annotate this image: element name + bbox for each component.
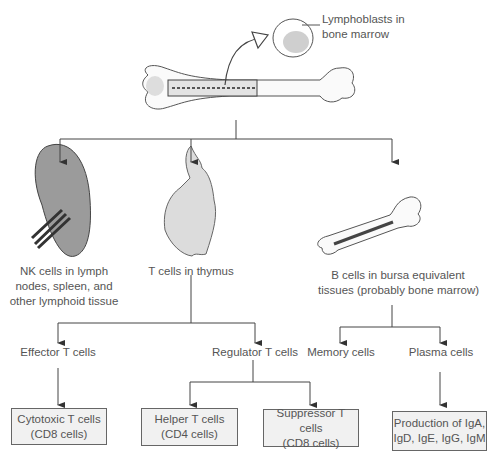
box-line-2: (CD4 cells) <box>142 427 237 442</box>
immunoglobulin-production-box: Production of IgA, IgD, IgE, IgG, IgM <box>392 411 487 451</box>
box-line-1: Cytotoxic T cells <box>12 412 106 427</box>
small-bone-icon <box>318 197 421 254</box>
t-cells-thymus-label: T cells in thymus <box>145 264 237 279</box>
lymphoblasts-label: Lymphoblasts in bone marrow <box>322 12 405 42</box>
effector-t-cells-label: Effector T cells <box>18 345 98 360</box>
b-line-2: tissues (probably bone marrow) <box>318 283 478 298</box>
lymphoblast-cell-icon <box>273 19 320 57</box>
callout-line-1: Lymphoblasts in <box>322 12 405 27</box>
b-line-1: B cells in bursa equivalent <box>318 268 478 283</box>
femur-bone-icon <box>143 66 355 110</box>
box-line-1: Suppressor T cells <box>264 406 358 436</box>
nk-cells-label: NK cells in lymph nodes, spleen, and oth… <box>2 264 126 309</box>
helper-t-cells-box: Helper T cells (CD4 cells) <box>141 408 238 446</box>
suppressor-t-cells-box: Suppressor T cells (CD8 cells) <box>263 409 359 447</box>
thymus-icon <box>164 146 215 256</box>
nk-line-3: other lymphoid tissue <box>2 294 126 309</box>
nk-line-1: NK cells in lymph <box>2 264 126 279</box>
box-line-2: (CD8 cells) <box>264 436 358 451</box>
memory-cells-label: Memory cells <box>305 345 377 360</box>
plasma-cells-label: Plasma cells <box>405 345 477 360</box>
box-line-1: Production of IgA, <box>393 416 486 431</box>
box-line-2: IgD, IgE, IgG, IgM <box>393 431 486 446</box>
callout-line-2: bone marrow <box>322 27 405 42</box>
spleen-icon <box>32 144 90 256</box>
diagram-canvas <box>0 0 501 459</box>
cytotoxic-t-cells-box: Cytotoxic T cells (CD8 cells) <box>11 408 107 445</box>
box-line-2: (CD8 cells) <box>12 427 106 442</box>
regulator-t-cells-label: Regulator T cells <box>210 345 300 360</box>
b-cells-label: B cells in bursa equivalent tissues (pro… <box>318 268 478 298</box>
nk-line-2: nodes, spleen, and <box>2 279 126 294</box>
curved-arrow-icon <box>252 32 268 48</box>
box-line-1: Helper T cells <box>142 412 237 427</box>
t-thymus-line: T cells in thymus <box>145 264 237 279</box>
